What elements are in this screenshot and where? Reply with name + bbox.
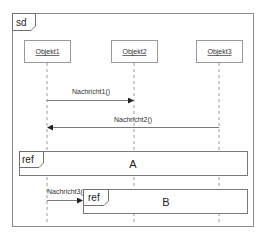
message-label: Nachricht2() xyxy=(114,116,152,124)
ref-name: B xyxy=(162,196,169,208)
message-label: Nachricht1() xyxy=(72,88,110,96)
message-label: Nachricht3( xyxy=(47,188,83,196)
object-objekt3[interactable]: Objekt3 xyxy=(197,41,243,63)
object-label: Objekt3 xyxy=(207,48,231,56)
frame-label: sd xyxy=(16,17,27,28)
ref-operator: ref xyxy=(88,192,100,203)
ref-name: A xyxy=(129,158,137,170)
object-objekt1[interactable]: Objekt1 xyxy=(25,41,71,63)
ref-fragment-b[interactable]: ref B xyxy=(84,190,248,214)
ref-operator: ref xyxy=(22,154,34,165)
object-objekt2[interactable]: Objekt2 xyxy=(112,41,158,63)
object-label: Objekt2 xyxy=(122,48,146,56)
sequence-diagram: sd Objekt1 Objekt2 Objekt3 Nachricht1() … xyxy=(0,0,266,238)
ref-fragment-a[interactable]: ref A xyxy=(20,152,248,176)
object-label: Objekt1 xyxy=(35,48,59,56)
